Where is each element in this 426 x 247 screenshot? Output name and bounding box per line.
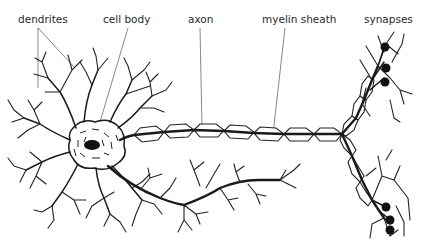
cell-body	[69, 120, 125, 169]
synapse-terminal	[382, 203, 391, 212]
leader-myelin-sheath	[273, 28, 285, 134]
leader-dendrites-2	[38, 28, 74, 67]
label-synapses: synapses	[364, 14, 413, 25]
synapse-terminal	[386, 226, 395, 235]
leader-cell-body	[100, 28, 128, 122]
synapse-terminal	[386, 216, 395, 225]
nucleus	[84, 140, 100, 150]
synapse-terminal	[382, 64, 391, 73]
leader-lines	[38, 28, 285, 134]
neuron-diagram	[0, 0, 426, 247]
label-cell-body: cell body	[103, 14, 150, 25]
axon	[120, 66, 384, 218]
myelin-sheath	[134, 76, 374, 206]
synapses-lower	[366, 150, 410, 238]
leader-axon	[200, 28, 202, 128]
synapse-terminal	[381, 78, 390, 87]
label-axon: axon	[188, 14, 213, 25]
synapse-terminal	[381, 43, 390, 52]
label-myelin-sheath: myelin sheath	[262, 14, 337, 25]
lower-branch	[108, 160, 300, 232]
label-dendrites: dendrites	[18, 14, 68, 25]
